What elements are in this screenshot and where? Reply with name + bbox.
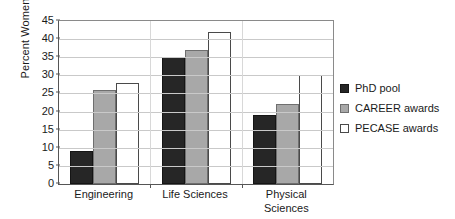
y-axis-tick-label: 5 bbox=[48, 159, 54, 170]
y-axis-tick-label: 30 bbox=[42, 69, 54, 80]
gridline bbox=[59, 75, 333, 76]
x-axis-category-labels: EngineeringLife SciencesPhysicalSciences bbox=[58, 187, 332, 219]
bar bbox=[185, 50, 208, 184]
y-axis-tick-label: 35 bbox=[42, 51, 54, 62]
bar bbox=[116, 83, 139, 184]
gridline bbox=[59, 130, 333, 131]
bar bbox=[70, 151, 93, 184]
legend-item: PhD pool bbox=[340, 78, 452, 98]
x-axis-category-label-line: Engineering bbox=[58, 187, 149, 201]
legend-item: PECASE awards bbox=[340, 118, 452, 138]
y-axis-tick-labels: 051015202530354045 bbox=[30, 20, 54, 183]
gridline bbox=[59, 39, 333, 40]
y-axis-tick-label: 40 bbox=[42, 33, 54, 44]
gridline bbox=[59, 166, 333, 167]
legend-swatch-icon bbox=[340, 84, 349, 93]
legend: PhD poolCAREER awardsPECASE awards bbox=[340, 78, 452, 138]
gridline bbox=[59, 57, 333, 58]
y-axis-tick-label: 0 bbox=[48, 178, 54, 189]
bar-chart: Percent Women 051015202530354045 Enginee… bbox=[0, 0, 455, 219]
x-axis-category-label: Engineering bbox=[58, 187, 149, 201]
bars-layer bbox=[59, 21, 333, 184]
bar bbox=[276, 104, 299, 184]
gridline bbox=[59, 148, 333, 149]
bar bbox=[253, 115, 276, 184]
x-axis-category-label-line: Life Sciences bbox=[149, 187, 240, 201]
legend-item-label: CAREER awards bbox=[355, 102, 439, 114]
bar bbox=[208, 32, 231, 184]
x-axis-category-label: Life Sciences bbox=[149, 187, 240, 201]
gridline bbox=[59, 93, 333, 94]
legend-item-label: PhD pool bbox=[355, 82, 400, 94]
x-axis-category-label: PhysicalSciences bbox=[241, 187, 332, 215]
legend-item-label: PECASE awards bbox=[355, 122, 438, 134]
y-axis-tick-label: 10 bbox=[42, 141, 54, 152]
x-axis-category-label-line: Physical bbox=[241, 187, 332, 201]
y-axis-tick-label: 45 bbox=[42, 15, 54, 26]
y-axis-tick-label: 15 bbox=[42, 123, 54, 134]
category-divider bbox=[242, 21, 243, 184]
plot-area bbox=[58, 20, 334, 185]
gridline bbox=[59, 112, 333, 113]
legend-swatch-icon bbox=[340, 104, 349, 113]
x-axis-category-label-line: Sciences bbox=[241, 201, 332, 215]
category-divider bbox=[150, 21, 151, 184]
y-axis-tick-label: 25 bbox=[42, 87, 54, 98]
bar bbox=[93, 90, 116, 184]
y-axis-tick-label: 20 bbox=[42, 105, 54, 116]
legend-swatch-icon bbox=[340, 124, 349, 133]
legend-item: CAREER awards bbox=[340, 98, 452, 118]
